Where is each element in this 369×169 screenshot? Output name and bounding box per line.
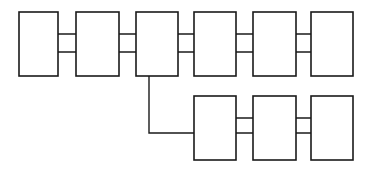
block-6[interactable] [311,12,353,76]
block-5[interactable] [253,12,296,76]
diagram-canvas [0,0,369,169]
block-4[interactable] [194,12,236,76]
block-2[interactable] [76,12,119,76]
block-3[interactable] [136,12,178,76]
block-7[interactable] [194,96,236,160]
block-1[interactable] [19,12,58,76]
diagram-root [0,0,369,169]
block-8[interactable] [253,96,296,160]
block-9[interactable] [311,96,353,160]
